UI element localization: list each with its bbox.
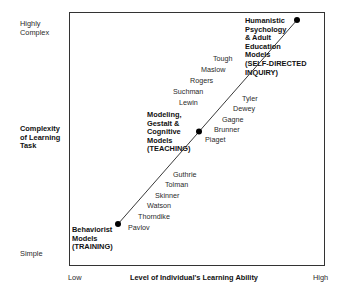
theorist-watson: Watson	[147, 202, 171, 210]
theorist-tyler: Tyler	[242, 95, 258, 103]
theorist-pavlov: Pavlov	[128, 224, 150, 232]
theorist-dewey: Dewey	[233, 105, 255, 113]
theorist-piaget: Piaget	[205, 136, 225, 144]
behaviorist-model-label: Behaviorist Models (TRAINING)	[72, 226, 113, 252]
cognitive-dot	[196, 129, 202, 135]
theorist-suchman: Suchman	[173, 88, 203, 96]
humanistic-line-7: INQUIRY)	[245, 69, 307, 78]
cognitive-line-5: (TEACHING)	[147, 145, 191, 154]
x-axis-title: Level of Individual's Learning Ability	[130, 274, 258, 283]
theorist-tolman: Tolman	[165, 181, 188, 189]
theorist-maslow: Maslow	[201, 66, 225, 74]
theorist-brunner: Brunner	[214, 126, 240, 134]
theorist-guthrie: Guthrie	[173, 171, 197, 179]
humanistic-model-label: Humanistic Psychology & Adult Education …	[245, 17, 307, 77]
x-axis-low-label: Low	[68, 274, 82, 283]
cognitive-model-label: Modeling, Gestalt & Cognitive Models (TE…	[147, 111, 191, 154]
theorist-skinner: Skinner	[155, 192, 179, 200]
theorist-thorndike: Thorndike	[138, 213, 170, 221]
x-axis-high-label: High	[313, 274, 328, 283]
theorist-gagne: Gagne	[222, 116, 244, 124]
theorist-lewin: Lewin	[179, 99, 198, 107]
behaviorist-dot	[115, 221, 121, 227]
theorist-tough: Tough	[213, 55, 233, 63]
theorist-rogers: Rogers	[190, 77, 213, 85]
behaviorist-line-3: (TRAINING)	[72, 243, 113, 252]
